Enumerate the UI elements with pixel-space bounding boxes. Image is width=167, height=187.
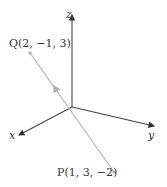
diagram-canvas: z x y Q(2, −1, 3) P(1, 3, −2)	[0, 0, 167, 187]
x-axis	[19, 107, 72, 135]
point-q	[28, 51, 31, 54]
axes-diagram: z x y Q(2, −1, 3) P(1, 3, −2)	[0, 0, 167, 187]
y-axis	[72, 107, 154, 126]
x-axis-label: x	[9, 129, 16, 142]
y-axis-label: y	[147, 129, 155, 142]
segment-direction-arrow-icon	[55, 88, 58, 93]
point-q-label: Q(2, −1, 3)	[9, 37, 71, 50]
point-p-label: P(1, 3, −2)	[57, 166, 117, 179]
z-axis-label: z	[65, 8, 72, 21]
